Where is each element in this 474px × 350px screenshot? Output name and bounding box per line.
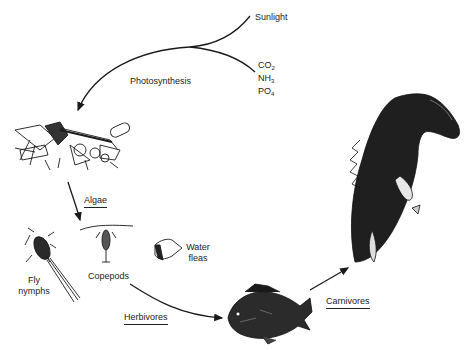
po4-base: PO [258,86,271,96]
nh3-base: NH [258,73,271,83]
sunlight-label: Sunlight [255,12,288,23]
nutrient-nh3-label: NH3 [258,73,274,87]
herbivores-label: Herbivores [124,312,168,325]
nutrient-co2-label: CO2 [258,60,275,74]
input-convergence-lines [190,16,255,72]
co2-sub: 2 [272,65,275,71]
algae-illustration [15,121,131,170]
water-fleas-line2: fleas [183,253,213,264]
algae-label: Algae [84,195,107,208]
nh3-sub: 3 [271,78,274,84]
algae-to-herbivores-arrow [68,182,80,220]
co2-base: CO [258,60,272,70]
diagram-artwork [0,0,474,350]
water-fleas-line1: Water [183,242,213,253]
sunfish-illustration [228,284,312,344]
fly-nymphs-line2: nymphs [14,286,54,297]
copepod-illustration [80,225,133,262]
fish-to-carnivore-arrow [310,268,348,290]
fly-nymphs-line1: Fly [14,275,54,286]
copepods-label: Copepods [88,271,129,282]
po4-sub: 4 [271,91,274,97]
fly-nymphs-label: Fly nymphs [14,275,54,297]
photosynthesis-label: Photosynthesis [130,76,191,87]
bass-illustration [350,94,460,262]
water-flea-illustration [155,239,182,260]
water-fleas-label: Water fleas [183,242,213,264]
carnivores-label: Carnivores [326,296,370,309]
nutrient-po4-label: PO4 [258,86,274,100]
